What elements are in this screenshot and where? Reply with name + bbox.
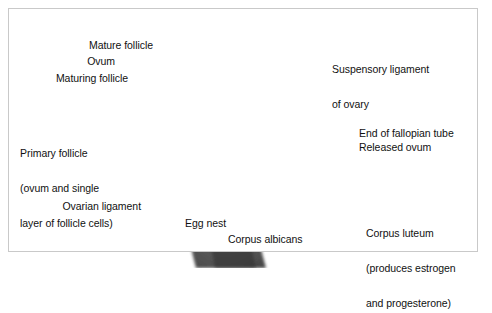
- label-released-ovum: Released ovum: [359, 142, 469, 154]
- label-suspensory-ligament-line2: of ovary: [332, 99, 472, 111]
- label-primary-follicle-line2: (ovum and single: [20, 183, 150, 195]
- label-primary-follicle-line3: layer of follicle cells): [20, 218, 150, 230]
- label-corpus-luteum: Corpus luteum (produces estrogen and pro…: [366, 205, 486, 313]
- label-corpus-albicans: Corpus albicans: [228, 234, 338, 246]
- label-suspensory-ligament: Suspensory ligament of ovary: [332, 41, 472, 134]
- label-mature-follicle: Mature follicle: [52, 40, 153, 52]
- label-primary-follicle-line1: Primary follicle: [20, 148, 150, 160]
- label-primary-follicle: Primary follicle (ovum and single layer …: [20, 125, 150, 253]
- label-maturing-follicle: Maturing follicle: [14, 73, 128, 85]
- label-corpus-luteum-line2: (produces estrogen: [366, 263, 486, 275]
- label-corpus-luteum-line1: Corpus luteum: [366, 228, 486, 240]
- label-suspensory-ligament-line1: Suspensory ligament: [332, 64, 472, 76]
- label-end-of-fallopian-tube: End of fallopian tube: [359, 128, 489, 140]
- label-corpus-luteum-line3: and progesterone): [366, 298, 486, 310]
- label-ovarian-ligament: Ovarian ligament: [22, 201, 141, 213]
- label-ovum: Ovum: [52, 56, 115, 68]
- label-egg-nest: Egg nest: [185, 218, 255, 230]
